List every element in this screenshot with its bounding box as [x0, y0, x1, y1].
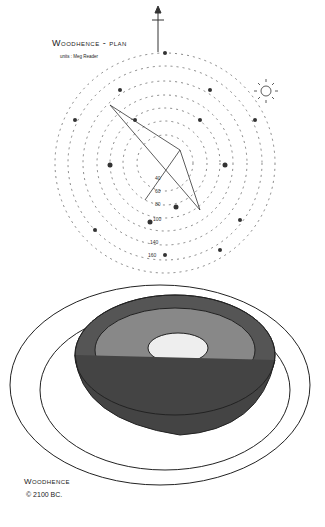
ring-label: 160 [148, 252, 157, 258]
ring-label: 100 [153, 216, 162, 222]
north-arrow-icon [152, 6, 164, 52]
henge-illustration [10, 285, 310, 485]
sun-icon [254, 79, 278, 103]
illustration-title: Woodhence [24, 477, 70, 486]
post-holes [73, 51, 257, 257]
post-rings [55, 53, 275, 273]
ring-label: 60 [155, 188, 161, 194]
ring-label: 80 [155, 201, 161, 207]
ring-label: 40 [155, 175, 161, 181]
woodhenge-drawing: 40 60 80 100 140 160 [0, 0, 325, 527]
ring-label: 140 [150, 239, 159, 245]
alignment-lines [110, 105, 200, 210]
illustration-date: © 2100 BC. [26, 491, 62, 498]
